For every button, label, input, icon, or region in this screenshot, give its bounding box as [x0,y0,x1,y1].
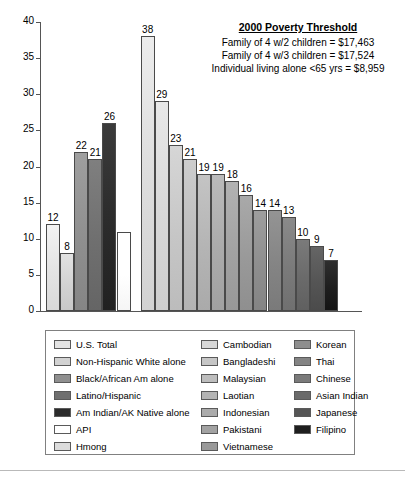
bar-korean: 14 [253,210,267,311]
y-tick-label: 5 [12,268,34,280]
legend-label: Latino/Hispanic [76,390,141,401]
bar-value-label: 9 [314,234,320,246]
legend-swatch-icon [54,374,71,383]
bar-value-label: 23 [170,133,181,145]
bar-asian-indian: 10 [296,239,310,311]
bar-value-label: 22 [76,140,87,152]
y-tick-label: 25 [12,123,34,135]
y-tick-mark [36,94,41,95]
bar-cambodian: 29 [155,101,169,311]
legend-label: Korean [316,339,347,350]
bar-value-label: 14 [269,198,280,210]
legend-item-latino-hispanic[interactable]: Latino/Hispanic [54,387,206,404]
legend-item-asian-indian[interactable]: Asian Indian [294,387,374,404]
bar-value-label: 10 [297,227,308,239]
legend-item-thai[interactable]: Thai [294,353,374,370]
legend-swatch-icon [201,357,218,366]
bar-value-label: 16 [241,183,252,195]
y-tick-label: 40 [12,15,34,27]
bar-value-label: 18 [227,169,238,181]
bar-pakistani: 18 [225,181,239,311]
bar-value-label: 21 [184,147,195,159]
annotation-line-1: Family of 4 w/2 children = $17,463 [196,36,400,49]
legend-swatch-icon [201,340,218,349]
legend-label: Thai [316,356,334,367]
legend-swatch-icon [201,374,218,383]
annotation-line-3: Individual living alone <65 yrs = $8,959 [196,62,400,75]
legend-swatch-icon [294,408,311,417]
legend-item-black-african-am-alone[interactable]: Black/African Am alone [54,370,206,387]
legend-item-u-s-total[interactable]: U.S. Total [54,336,206,353]
y-tick-mark [36,58,41,59]
legend-label: API [76,424,91,435]
legend-item-filipino[interactable]: Filipino [294,421,374,438]
legend-column-2: CambodianBangladeshiMalaysianLaotianIndo… [201,336,296,455]
bar-value-label: 21 [90,147,101,159]
y-tick-mark [36,130,41,131]
poverty-threshold-annotation: 2000 Poverty Threshold Family of 4 w/2 c… [196,20,400,75]
y-tick-mark [36,275,41,276]
legend-swatch-icon [294,425,311,434]
legend-item-api[interactable]: API [54,421,206,438]
bar-hmong: 38 [141,36,155,311]
legend-label: Pakistani [223,424,262,435]
legend-label: Hmong [76,441,107,452]
y-tick-label: 30 [12,87,34,99]
legend-label: Indonesian [223,407,269,418]
legend-item-chinese[interactable]: Chinese [294,370,374,387]
legend-swatch-icon [54,425,71,434]
bar-thai: 14 [268,210,282,311]
legend-label: Non-Hispanic White alone [76,356,186,367]
legend-item-bangladeshi[interactable]: Bangladeshi [201,353,296,370]
legend-item-hmong[interactable]: Hmong [54,438,206,455]
bar-filipino: 7 [324,260,338,311]
legend-label: Japanese [316,407,357,418]
legend-item-indonesian[interactable]: Indonesian [201,404,296,421]
legend-item-non-hispanic-white-alone[interactable]: Non-Hispanic White alone [54,353,206,370]
legend-label: Bangladeshi [223,356,275,367]
legend-swatch-icon [201,408,218,417]
bar-value-label: 8 [64,241,70,253]
bar-latino-hispanic: 21 [88,159,102,311]
y-tick-mark [36,167,41,168]
y-tick-label: 0 [12,304,34,316]
legend-swatch-icon [201,391,218,400]
legend-item-vietnamese[interactable]: Vietnamese [201,438,296,455]
bar-value-label: 14 [255,198,266,210]
legend-swatch-icon [294,374,311,383]
bar-chinese: 13 [282,217,296,311]
legend-column-1: U.S. TotalNon-Hispanic White aloneBlack/… [54,336,206,455]
x-axis-line [40,311,362,312]
legend-label: Asian Indian [316,390,368,401]
legend-item-korean[interactable]: Korean [294,336,374,353]
legend-column-3: KoreanThaiChineseAsian IndianJapaneseFil… [294,336,374,438]
y-tick-label: 20 [12,160,34,172]
bar-value-label: 29 [156,89,167,101]
legend-swatch-icon [54,408,71,417]
legend-label: Chinese [316,373,351,384]
y-tick-mark [36,311,41,312]
legend-item-pakistani[interactable]: Pakistani [201,421,296,438]
legend-swatch-icon [294,340,311,349]
legend-label: Am Indian/AK Native alone [76,407,190,418]
legend-item-laotian[interactable]: Laotian [201,387,296,404]
bar-japanese: 9 [310,246,324,311]
legend-swatch-icon [54,391,71,400]
legend-item-malaysian[interactable]: Malaysian [201,370,296,387]
legend-swatch-icon [201,442,218,451]
annotation-title: 2000 Poverty Threshold [196,20,400,34]
legend-item-cambodian[interactable]: Cambodian [201,336,296,353]
legend-swatch-icon [201,425,218,434]
bar-vietnamese: 16 [239,195,253,311]
legend-item-japanese[interactable]: Japanese [294,404,374,421]
bar-u-s-total: 12 [46,224,60,311]
bar-value-label: 19 [198,162,209,174]
y-tick-label: 15 [12,196,34,208]
legend-item-am-indian-ak-native-alone[interactable]: Am Indian/AK Native alone [54,404,206,421]
bar-bangladeshi: 23 [169,145,183,311]
y-tick-mark [36,203,41,204]
bar-malaysian: 21 [183,159,197,311]
legend-label: Filipino [316,424,346,435]
bar-value-label: 12 [47,212,58,224]
legend-swatch-icon [54,357,71,366]
